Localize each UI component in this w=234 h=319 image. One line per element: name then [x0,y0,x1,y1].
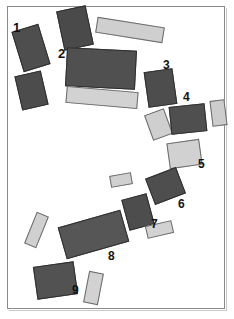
label-9: 9 [72,284,78,296]
label-2: 2 [58,47,65,60]
blade-shape-g [144,68,178,108]
label-8: 8 [108,250,114,262]
figure-canvas: 123456789 [0,0,234,319]
label-6: 6 [178,198,184,210]
label-1: 1 [13,21,20,34]
blade-shape-j [209,99,227,127]
label-3: 3 [163,59,169,71]
label-5: 5 [198,158,204,170]
label-7: 7 [151,218,157,230]
blade-shape-e [65,47,137,90]
blade-shape-i [169,103,208,135]
label-4: 4 [183,91,189,103]
